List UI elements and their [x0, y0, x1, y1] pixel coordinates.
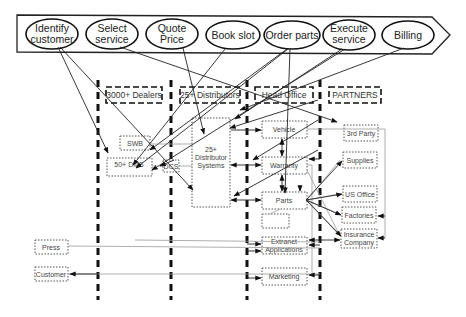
system-label: Systems	[198, 162, 225, 170]
system-label: Vehicle	[273, 126, 296, 133]
partner-label: 3rd Party	[347, 130, 376, 138]
system-label: SWB	[127, 140, 143, 147]
step-label: customer	[30, 33, 74, 45]
system-label: 25+	[205, 146, 217, 153]
step-label: Order parts	[265, 29, 318, 41]
partner-label: Company	[344, 239, 374, 247]
partner-label: Factories	[345, 212, 374, 219]
external-label: Press	[42, 244, 60, 251]
system-label: Parts	[276, 197, 293, 204]
system-unlabeled	[262, 214, 289, 228]
step-label: Billing	[394, 29, 422, 41]
partner-label: Insurance	[344, 231, 375, 238]
step-label: service	[332, 33, 365, 45]
system-label: Applications	[265, 246, 303, 254]
process-step-execute-service: Execute service	[323, 20, 375, 50]
process-step-book-slot: Book slot	[206, 21, 260, 49]
lane-label-dealers: 3000+ Dealers	[106, 90, 162, 100]
process-step-identify-customer: Identify customer	[26, 19, 78, 49]
step-label: Book slot	[211, 29, 254, 41]
system-label: Distributor	[195, 154, 228, 161]
diagram-canvas: Identify customer Select service Quote P…	[0, 0, 466, 317]
partner-label: US Office	[345, 191, 375, 198]
partner-label: Supplies	[347, 157, 374, 165]
system-label: 50+ DMS	[114, 161, 144, 168]
external-label: Customer	[36, 271, 67, 278]
process-step-quote-price: Quote Price	[146, 19, 198, 49]
process-step-order-parts: Order parts	[264, 21, 320, 49]
step-label: service	[95, 33, 128, 45]
step-label: Price	[160, 33, 184, 45]
process-step-select-service: Select service	[86, 19, 138, 49]
lane-label-partners: PARTNERS	[332, 90, 378, 100]
process-step-billing: Billing	[382, 21, 434, 49]
